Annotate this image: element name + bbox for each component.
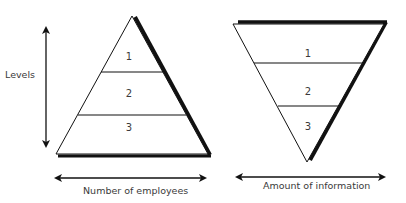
employees-label: Number of employees [83,185,188,196]
left-level-1: 1 [126,51,132,62]
upright-pyramid [56,16,214,158]
right-level-2: 2 [305,86,311,97]
right-level-3: 3 [305,121,311,132]
left-level-2: 2 [126,88,132,99]
levels-label: Levels [5,69,35,80]
left-level-3: 3 [126,122,132,133]
pyramid-diagram: Levels 1 2 3 Number of employees 1 2 3 A… [0,0,406,203]
information-label: Amount of information [263,180,370,191]
right-level-1: 1 [305,48,311,59]
